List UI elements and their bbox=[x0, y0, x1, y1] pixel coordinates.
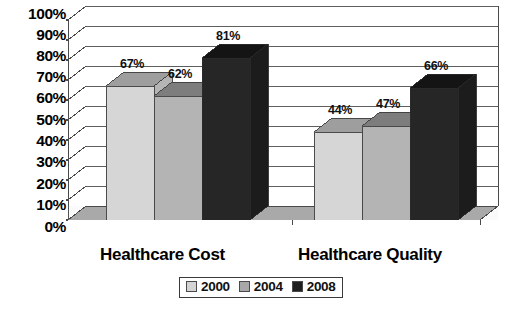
plot-canvas bbox=[66, 6, 507, 242]
y-tick-80: 80% bbox=[2, 48, 66, 64]
left-wall bbox=[68, 6, 86, 220]
y-tick-90: 90% bbox=[2, 27, 66, 43]
bar-quality-2008 bbox=[410, 74, 476, 220]
value-label-cost-2000: 67% bbox=[120, 58, 144, 71]
chart-legend: 2000 2004 2008 bbox=[179, 277, 343, 298]
y-tick-70: 70% bbox=[2, 69, 66, 85]
y-tick-20: 20% bbox=[2, 176, 66, 192]
category-label-healthcare-cost: Healthcare Cost bbox=[100, 246, 225, 263]
bar-front-face bbox=[362, 126, 410, 220]
bar-front-face bbox=[314, 132, 362, 220]
bar-chart: 100% 90% 80% 70% 60% 50% 40% 30% 20% 10%… bbox=[0, 0, 507, 315]
legend-label-2004: 2004 bbox=[254, 280, 283, 294]
y-axis-tick-labels: 100% 90% 80% 70% 60% 50% 40% 30% 20% 10%… bbox=[0, 0, 66, 250]
y-tick-30: 30% bbox=[2, 154, 66, 170]
legend-swatch-2008-icon bbox=[292, 281, 303, 292]
bar-front-face bbox=[202, 58, 250, 220]
plot-area: 67% 62% 81% 44% 47% 66% bbox=[66, 6, 507, 242]
legend-label-2008: 2008 bbox=[307, 280, 336, 294]
legend-label-2000: 2000 bbox=[201, 280, 230, 294]
value-label-quality-2000: 44% bbox=[328, 104, 352, 117]
bar-front-face bbox=[154, 96, 202, 220]
legend-item-2000: 2000 bbox=[186, 280, 230, 294]
y-tick-60: 60% bbox=[2, 90, 66, 106]
bar-front-face bbox=[410, 88, 458, 220]
y-tick-10: 10% bbox=[2, 197, 66, 213]
value-label-quality-2004: 47% bbox=[376, 98, 400, 111]
value-label-cost-2004: 62% bbox=[168, 68, 192, 81]
legend-item-2008: 2008 bbox=[292, 280, 336, 294]
bar-side-face bbox=[458, 74, 476, 220]
legend-item-2004: 2004 bbox=[239, 280, 283, 294]
bar-cost-2008 bbox=[202, 44, 268, 220]
y-tick-40: 40% bbox=[2, 133, 66, 149]
y-tick-50: 50% bbox=[2, 112, 66, 128]
legend-swatch-2000-icon bbox=[186, 281, 197, 292]
value-label-cost-2008: 81% bbox=[216, 30, 240, 43]
x-axis-category-labels: Healthcare Cost Healthcare Quality bbox=[0, 246, 507, 272]
bar-front-face bbox=[106, 86, 154, 220]
bar-side-face bbox=[250, 44, 268, 220]
value-label-quality-2008: 66% bbox=[424, 60, 448, 73]
category-label-healthcare-quality: Healthcare Quality bbox=[298, 246, 442, 263]
legend-swatch-2004-icon bbox=[239, 281, 250, 292]
y-tick-100: 100% bbox=[2, 6, 66, 22]
y-tick-0: 0% bbox=[2, 219, 66, 235]
